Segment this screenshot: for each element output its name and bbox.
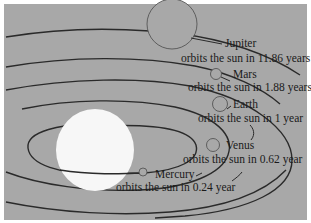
label-venus-period: orbits the sun in 0.62 year <box>183 153 303 166</box>
planet-mercury <box>139 168 147 176</box>
sun <box>56 109 134 191</box>
planet-venus <box>207 139 220 152</box>
label-earth-period: orbits the sun in 1 year <box>198 112 303 125</box>
label-mercury-name: Mercury <box>155 168 195 181</box>
label-mars-period: orbits the sun in 1.88 years <box>188 81 311 94</box>
label-mercury-period: orbits the sun in 0.24 year <box>116 181 236 194</box>
label-jupiter-name: Jupiter <box>225 37 256 50</box>
label-jupiter-period: orbits the sun in 11.86 years <box>181 52 311 65</box>
solar-system-diagram: Jupiter orbits the sun in 11.86 years Ma… <box>0 0 311 223</box>
label-earth-name: Earth <box>233 98 258 110</box>
planet-mars <box>211 69 222 80</box>
label-venus-name: Venus <box>226 139 255 151</box>
planet-earth <box>213 97 228 112</box>
planet-jupiter <box>147 0 197 49</box>
label-mars-name: Mars <box>233 68 257 80</box>
